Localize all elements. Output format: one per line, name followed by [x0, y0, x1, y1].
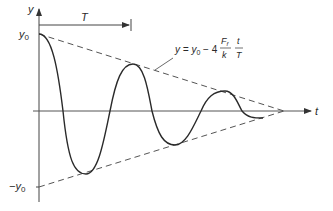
- upper-envelope: [39, 34, 284, 111]
- neg-y0-label: −y0: [9, 180, 26, 194]
- t-axis-label: t: [315, 105, 319, 117]
- svg-text:t: t: [237, 36, 240, 46]
- svg-text:y = y0 − 4: y = y0 − 4: [174, 44, 218, 56]
- y0-label: y0: [18, 28, 30, 42]
- y-axis-label: y: [27, 3, 35, 15]
- lower-envelope: [39, 111, 284, 187]
- oscillation-curve: [39, 34, 263, 174]
- svg-text:k: k: [222, 50, 227, 60]
- damped-oscillation-diagram: y t y0 −y0 T y = y0 − 4 Ff k t T: [0, 0, 333, 211]
- svg-text:Ff: Ff: [221, 36, 230, 47]
- equation-leader: [155, 58, 173, 70]
- envelope-equation: y = y0 − 4 Ff k t T: [174, 36, 243, 60]
- period-label: T: [81, 11, 89, 23]
- svg-text:T: T: [236, 50, 243, 60]
